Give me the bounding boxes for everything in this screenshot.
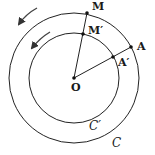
point-a xyxy=(129,45,133,49)
label-a: A xyxy=(136,40,146,53)
point-a-prime xyxy=(111,55,115,59)
segment-om xyxy=(74,13,87,78)
point-m-prime xyxy=(81,32,85,36)
outer-rotation-arrow-icon xyxy=(19,8,37,24)
point-m xyxy=(85,11,89,15)
rotation-diagram: M M′ A A′ O C′ C xyxy=(0,0,155,155)
point-o xyxy=(72,76,76,80)
label-m: M xyxy=(92,0,104,13)
label-c-prime: C′ xyxy=(89,119,101,133)
label-o: O xyxy=(71,81,81,94)
inner-rotation-arrow-icon xyxy=(32,32,50,48)
label-m-prime: M′ xyxy=(88,24,103,37)
label-c: C xyxy=(112,136,121,150)
label-a-prime: A′ xyxy=(117,56,130,69)
